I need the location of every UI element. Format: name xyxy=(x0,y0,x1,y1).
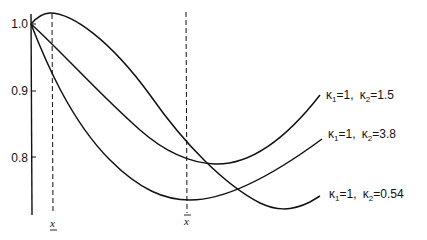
x-bar-marker-line xyxy=(186,12,187,213)
chart: 1.0 0.9 0.8 x x κ1=1, κ2=1.5 κ1=1, κ2=3.… xyxy=(0,0,427,240)
label-k2-1.5: κ1=1, κ2=1.5 xyxy=(326,88,394,104)
y-tick-label: 0.9 xyxy=(11,84,28,98)
curve-k2-1.5 xyxy=(31,24,320,164)
label-k2-3.8: κ1=1, κ2=3.8 xyxy=(328,127,396,143)
x-lower-label: x xyxy=(49,217,55,229)
y-tick-label: 0.8 xyxy=(11,151,28,165)
x-bar-label: x xyxy=(183,215,189,227)
y-tick-label: 1.0 xyxy=(11,17,28,31)
y-axis xyxy=(31,14,32,215)
label-k2-0.54: κ1=1, κ2=0.54 xyxy=(329,187,404,203)
curve-k2-0.54 xyxy=(31,13,320,209)
curve-k2-3.8 xyxy=(31,24,322,200)
